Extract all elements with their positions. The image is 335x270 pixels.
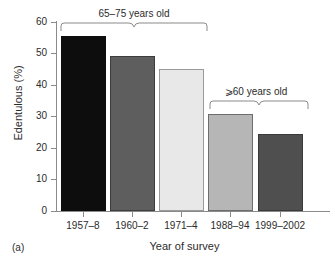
x-tick-mark-1957-8 xyxy=(83,212,84,217)
x-tick-mark-1999-2002 xyxy=(280,212,281,217)
group-bracket-65-75-icon xyxy=(60,22,208,31)
bar-1971-4 xyxy=(159,69,204,211)
bar-1960-2 xyxy=(110,56,155,211)
y-tick-label-10: 10 xyxy=(7,174,47,184)
y-tick-mark-10 xyxy=(51,179,56,180)
y-tick-label-40: 40 xyxy=(7,80,47,90)
y-tick-label-50: 50 xyxy=(7,48,47,58)
x-tick-mark-1971-4 xyxy=(181,212,182,217)
x-tick-label-1988-94: 1988–94 xyxy=(211,220,250,231)
x-tick-mark-1960-2 xyxy=(132,212,133,217)
x-tick-mark-1988-94 xyxy=(230,212,231,217)
y-tick-label-30: 30 xyxy=(7,111,47,121)
y-tick-mark-30 xyxy=(51,116,56,117)
y-tick-mark-60 xyxy=(51,22,56,23)
panel-label: (a) xyxy=(12,242,24,253)
group-label-65-75: 65–75 years old xyxy=(98,8,169,19)
y-tick-label-20: 20 xyxy=(7,143,47,153)
group-label-60-plus: ⩾60 years old xyxy=(225,86,287,97)
bar-1999-2002 xyxy=(258,134,303,211)
x-tick-label-1971-4: 1971–4 xyxy=(164,220,197,231)
x-tick-label-1999-2002: 1999–2002 xyxy=(255,220,305,231)
y-tick-label-60: 60 xyxy=(7,17,47,27)
bar-1988-94 xyxy=(208,114,253,211)
y-tick-label-0: 0 xyxy=(7,206,47,216)
x-tick-label-1960-2: 1960–2 xyxy=(115,220,148,231)
group-bracket-60-plus-icon xyxy=(209,100,309,109)
x-axis-line xyxy=(56,211,330,212)
x-tick-label-1957-8: 1957–8 xyxy=(66,220,99,231)
plot-area xyxy=(57,22,330,211)
bar-1957-8 xyxy=(61,36,106,211)
y-tick-mark-0 xyxy=(51,211,56,212)
y-tick-mark-50 xyxy=(51,53,56,54)
y-tick-mark-20 xyxy=(51,148,56,149)
y-tick-mark-40 xyxy=(51,85,56,86)
figure-panel-a: Edentulous (%) 0 10 20 30 40 50 60 1957–… xyxy=(0,0,335,270)
x-axis-title: Year of survey xyxy=(0,240,335,252)
